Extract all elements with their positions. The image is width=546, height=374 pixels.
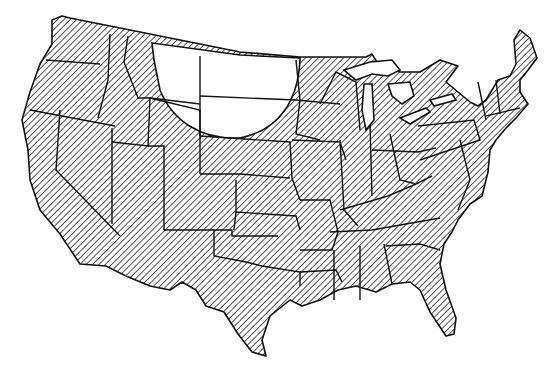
map-container [0,0,546,374]
us-map [0,0,546,374]
